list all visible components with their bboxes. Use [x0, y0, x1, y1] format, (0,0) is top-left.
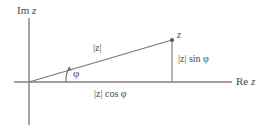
angle-arc-arrowhead — [67, 66, 71, 70]
opposite-leg-label: |z| sin φ — [178, 54, 209, 64]
real-axis-label-variable: z — [251, 75, 255, 87]
adjacent-leg-label: |z| cos φ — [94, 89, 127, 99]
modulus-label: |z| — [93, 43, 101, 53]
complex-plane-figure: Im z Re z z |z| |z| sin φ |z| cos φ φ — [0, 0, 275, 131]
point-z-label: z — [177, 30, 181, 40]
imaginary-axis-label-prefix: Im — [17, 4, 29, 16]
real-axis-label-prefix: Re — [236, 75, 248, 87]
figure-canvas — [0, 0, 275, 131]
imaginary-axis-label-variable: z — [32, 4, 36, 16]
imaginary-axis-label: Im z — [17, 5, 36, 16]
point-z-marker — [170, 38, 174, 42]
real-axis-label: Re z — [236, 76, 255, 87]
angle-label: φ — [73, 68, 79, 79]
